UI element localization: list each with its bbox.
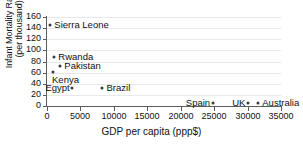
data-point — [257, 101, 260, 104]
gridline — [47, 39, 281, 40]
y-tick-label-group: 020406080100120140160 — [0, 0, 41, 144]
y-tick-label: 120 — [1, 34, 41, 43]
data-point-label: Brazil — [106, 83, 130, 93]
data-point-label: Pakistan — [64, 61, 100, 71]
data-point — [247, 101, 250, 104]
y-tick-label: 0 — [1, 101, 41, 110]
y-tick-label: 40 — [1, 79, 41, 88]
data-point-label: Egypt — [45, 83, 69, 93]
data-point — [71, 87, 74, 90]
x-tick-label: 10000 — [101, 111, 126, 121]
y-tick-label: 60 — [1, 68, 41, 77]
gridline — [47, 17, 281, 18]
y-tick-label: 100 — [1, 45, 41, 54]
gridline — [47, 73, 281, 74]
data-point-label: Sierra Leone — [54, 20, 108, 30]
data-point-label: Spain — [186, 98, 210, 108]
gridline — [47, 95, 281, 96]
x-axis-title: GDP per capita (ppp$) — [0, 126, 303, 137]
y-tick-label: 20 — [1, 90, 41, 99]
x-tick-label: 0 — [44, 111, 49, 121]
data-point — [211, 101, 214, 104]
data-point — [59, 64, 62, 67]
data-point-label: Australia — [262, 98, 299, 108]
x-axis-line — [46, 106, 282, 107]
data-point — [52, 70, 55, 73]
gridline — [47, 84, 281, 85]
y-axis-line — [46, 16, 47, 107]
x-tick-label: 30000 — [235, 111, 260, 121]
data-point — [49, 24, 52, 27]
data-point — [101, 87, 104, 90]
x-tick-label: 15000 — [134, 111, 159, 121]
y-tick-label: 160 — [1, 12, 41, 21]
data-point-label: UK — [232, 98, 245, 108]
x-tick-label: 35000 — [268, 111, 293, 121]
y-tick-label: 140 — [1, 23, 41, 32]
x-tick-label: 25000 — [201, 111, 226, 121]
scatter-chart: Infant Mortality Rate (per thousand) 020… — [0, 0, 303, 144]
y-tick-label: 80 — [1, 57, 41, 66]
x-tick-label: 5000 — [70, 111, 90, 121]
x-tick-label: 20000 — [168, 111, 193, 121]
data-point — [53, 56, 56, 59]
